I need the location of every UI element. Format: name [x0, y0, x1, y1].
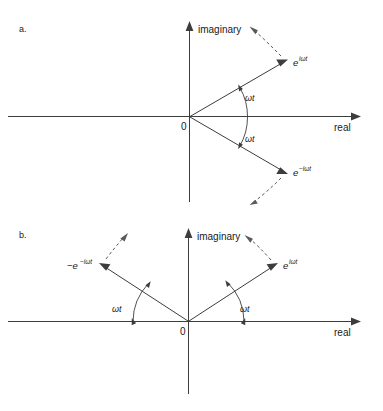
panel-a-vector-e-minus-base: e: [293, 167, 298, 178]
panel-b-letter: b.: [19, 230, 27, 240]
panel-b-angle-arc-left: [133, 284, 149, 322]
panel-b: b. real imaginary 0 e iωt −e −iωt: [8, 228, 361, 394]
panel-a-vector-e-plus-base: e: [293, 57, 298, 68]
panel-a: a. real imaginary 0 e iωt e −iωt ω: [8, 21, 361, 205]
panel-b-vector-minus-e-minus-base: −e: [67, 260, 78, 271]
panel-a-real-axis-label: real: [334, 122, 351, 133]
figure-canvas: a. real imaginary 0 e iωt e −iωt ω: [0, 0, 383, 411]
panel-b-vector-e-plus-base: e: [283, 260, 288, 271]
panel-a-origin-label: 0: [181, 121, 187, 132]
panel-a-real-axis-arrowhead: [351, 113, 361, 121]
panel-b-angle-arc-right-arrowhead-top: [225, 280, 230, 287]
panel-b-real-axis-label: real: [334, 327, 351, 338]
panel-b-rotation-dashed-left: [106, 238, 123, 259]
panel-b-imaginary-axis-label: imaginary: [197, 231, 240, 242]
panel-a-vector-e-plus-exponent: iωt: [299, 55, 309, 62]
panel-a-angle-arc-lower-arrowhead: [238, 142, 243, 149]
panel-b-rotation-arrowhead-right: [245, 235, 253, 243]
panel-b-vector-e-plus: [189, 267, 272, 321]
panel-b-vector-minus-e-minus-exponent: −iωt: [80, 258, 93, 265]
panel-a-rotation-dashed-upper: [255, 31, 281, 56]
panel-b-angle-arc-right: [228, 283, 245, 322]
panel-b-rotation-dashed-right: [250, 239, 271, 260]
panel-a-rotation-arrowhead-upper: [250, 27, 258, 35]
panel-b-vector-e-plus-exponent: iωt: [289, 258, 299, 265]
panel-a-letter: a.: [19, 24, 27, 34]
panel-a-vector-e-plus: [190, 63, 282, 117]
panel-a-rotation-dashed-lower: [255, 178, 281, 201]
panel-a-vector-e-minus: [190, 117, 282, 171]
panel-a-angle-label-lower: ωt: [245, 134, 255, 144]
panel-b-angle-arc-left-arrowhead-top: [145, 281, 150, 288]
panel-b-real-axis-arrowhead: [351, 318, 361, 326]
panel-a-imaginary-axis-arrowhead: [186, 21, 194, 31]
panel-b-imaginary-axis-arrowhead: [185, 228, 193, 238]
panel-a-imaginary-axis-label: imaginary: [198, 24, 241, 35]
panel-a-vector-e-minus-exponent: −iωt: [299, 165, 312, 172]
panel-a-angle-label-upper: ωt: [245, 93, 255, 103]
panel-a-rotation-arrowhead-lower: [250, 200, 258, 205]
panel-b-angle-label-left: ωt: [112, 304, 122, 314]
panel-b-angle-label-right: ωt: [240, 304, 250, 314]
panel-b-origin-label: 0: [180, 326, 186, 337]
phasor-figure: a. real imaginary 0 e iωt e −iωt ω: [0, 0, 383, 411]
